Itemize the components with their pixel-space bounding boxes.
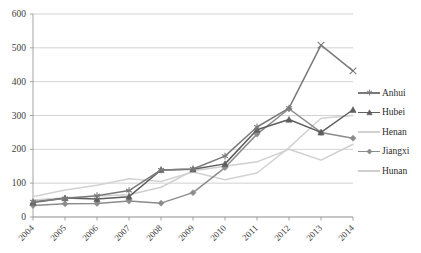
data-point	[367, 90, 372, 96]
legend-item-hunan[interactable]: Hunan	[358, 161, 421, 181]
legend-marker-diamond-icon	[366, 148, 373, 155]
data-point	[350, 135, 356, 141]
y-axis-tick-label: 0	[0, 212, 26, 222]
y-axis-tick-label: 500	[0, 43, 26, 53]
legend-marker-asterisk-icon	[366, 89, 373, 96]
legend-key-icon	[358, 145, 380, 157]
legend-key-icon	[358, 165, 380, 177]
line-chart: 0100200300400500600 20042005200620072008…	[0, 0, 421, 253]
legend-item-hubei[interactable]: Hubei	[358, 103, 421, 123]
legend-item-anhui[interactable]: Anhui	[358, 83, 421, 103]
series-henan	[33, 116, 353, 197]
legend-label: Hubei	[380, 107, 405, 117]
legend-key-icon	[358, 126, 380, 138]
y-axis-tick-label: 200	[0, 144, 26, 154]
legend-key-icon	[358, 87, 380, 99]
legend-label: Jiangxi	[380, 146, 409, 156]
legend-label: Anhui	[380, 88, 406, 98]
legend-item-jiangxi[interactable]: Jiangxi	[358, 142, 421, 162]
series-jiangxi	[30, 106, 356, 209]
legend-marker-triangle-icon	[366, 109, 373, 116]
chart-legend: AnhuiHubeiHenanJiangxiHunan	[358, 83, 421, 181]
legend-label: Henan	[380, 127, 407, 137]
y-axis-tick-label: 100	[0, 178, 26, 188]
legend-key-icon	[358, 106, 380, 118]
data-point	[367, 149, 372, 154]
legend-item-henan[interactable]: Henan	[358, 122, 421, 142]
data-point	[367, 110, 372, 115]
legend-label: Hunan	[380, 166, 407, 176]
x-tick-marks	[33, 217, 353, 221]
y-axis-tick-label: 400	[0, 77, 26, 87]
series-anhui	[30, 42, 356, 205]
gridlines	[33, 14, 353, 217]
data-point	[158, 200, 164, 206]
data-point	[350, 107, 356, 113]
y-axis-tick-label: 600	[0, 9, 26, 19]
data-point	[350, 68, 357, 75]
y-axis-tick-label: 300	[0, 111, 26, 121]
data-point	[286, 116, 292, 122]
